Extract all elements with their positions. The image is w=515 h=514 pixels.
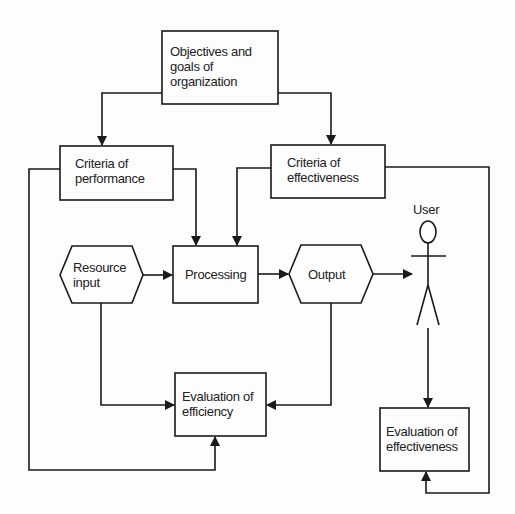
evaluation-effectiveness-line-1: Evaluation of bbox=[386, 424, 458, 439]
objectives-line-2: goals of bbox=[170, 59, 252, 74]
criteria-performance-label: Criteria of performance bbox=[75, 156, 145, 186]
evaluation-efficiency-label: Evaluation of efficiency bbox=[182, 389, 253, 419]
user-stick-figure-icon bbox=[411, 221, 446, 325]
resource-input-line-2: input bbox=[73, 275, 126, 290]
processing-label: Processing bbox=[185, 267, 246, 282]
evaluation-efficiency-line-1: Evaluation of bbox=[182, 389, 253, 404]
resource-input-line-1: Resource bbox=[73, 260, 126, 275]
processing-line-1: Processing bbox=[185, 267, 246, 282]
objectives-label: Objectives and goals of organization bbox=[170, 44, 252, 89]
objectives-line-3: organization bbox=[170, 74, 252, 89]
evaluation-efficiency-line-2: efficiency bbox=[182, 404, 253, 419]
criteria-effectiveness-line-2: effectiveness bbox=[287, 170, 359, 185]
criteria-performance-line-1: Criteria of bbox=[75, 156, 145, 171]
objectives-line-1: Objectives and bbox=[170, 44, 252, 59]
user-label: User bbox=[413, 202, 439, 217]
criteria-effectiveness-line-1: Criteria of bbox=[287, 155, 359, 170]
output-line-1: Output bbox=[308, 267, 345, 282]
criteria-performance-line-2: performance bbox=[75, 171, 145, 186]
evaluation-effectiveness-line-2: effectiveness bbox=[386, 439, 458, 454]
diagram-canvas: Objectives and goals of organization Cri… bbox=[0, 0, 515, 514]
criteria-effectiveness-label: Criteria of effectiveness bbox=[287, 155, 359, 185]
resource-input-label: Resource input bbox=[73, 260, 126, 290]
output-label: Output bbox=[308, 267, 345, 282]
evaluation-effectiveness-label: Evaluation of effectiveness bbox=[386, 424, 458, 454]
